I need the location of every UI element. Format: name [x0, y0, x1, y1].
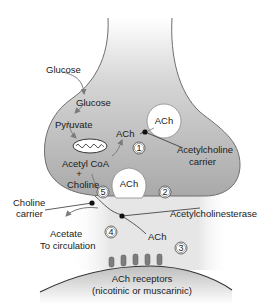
- step-4: 4: [105, 226, 117, 238]
- label-glucose-outside: Glucose: [46, 64, 81, 75]
- label-choline-inside: Choline: [67, 179, 99, 190]
- step-1: 1: [133, 142, 145, 154]
- choline-carrier-dot: [89, 200, 94, 205]
- mitochondrion-icon: [73, 139, 107, 153]
- label-ach-cleft: ACh: [148, 231, 166, 242]
- svg-text:3: 3: [178, 243, 183, 253]
- ach-docked-vesicle-label: ACh: [120, 178, 138, 189]
- label-plus: +: [76, 168, 82, 179]
- step-3: 3: [175, 242, 187, 254]
- label-receptors-2: (nicotinic or muscarinic): [92, 285, 192, 296]
- svg-text:4: 4: [108, 227, 113, 237]
- label-acetyl-coa: Acetyl CoA: [62, 158, 110, 169]
- label-choline-carrier-1: Choline: [13, 197, 45, 208]
- label-ach-carrier-1: Acetylcholine: [177, 144, 233, 155]
- svg-text:1: 1: [136, 143, 141, 153]
- label-glucose-inside: Glucose: [76, 97, 111, 108]
- synapse-diagram: ACh ACh 1 2 3: [0, 0, 260, 304]
- label-acetylcholinesterase: Acetylcholinesterase: [170, 208, 257, 219]
- label-receptors-1: ACh receptors: [112, 273, 173, 284]
- label-acetate: Acetate: [50, 228, 82, 239]
- presynaptic-terminal: [44, 18, 240, 196]
- ach-vesicle-label: ACh: [155, 115, 173, 126]
- label-ach-synth: ACh: [116, 128, 134, 139]
- label-to-circulation: To circulation: [40, 240, 95, 251]
- acetylcholine-carrier-dot: [142, 129, 147, 134]
- label-ach-carrier-2: carrier: [189, 156, 216, 167]
- svg-text:2: 2: [162, 187, 167, 197]
- label-pyruvate: Pyruvate: [55, 119, 93, 130]
- acetylcholinesterase-dot: [119, 213, 124, 218]
- label-choline-carrier-2: carrier: [16, 208, 43, 219]
- step-2: 2: [159, 186, 171, 198]
- svg-text:5: 5: [100, 187, 105, 197]
